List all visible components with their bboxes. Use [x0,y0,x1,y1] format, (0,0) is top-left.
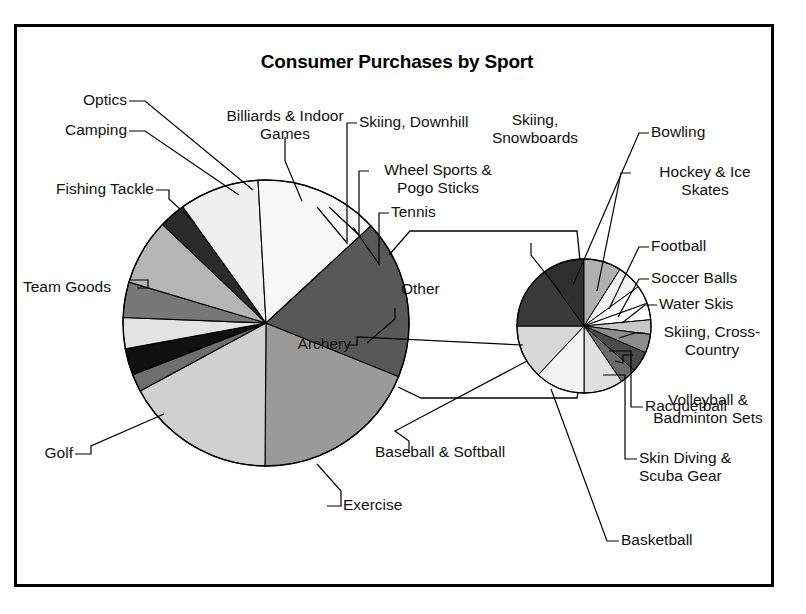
primary-pie [123,180,409,466]
label-skiing-snowboards: Skiing, Snowboards [459,111,611,148]
leader-baseball [395,361,527,453]
label-exercise: Exercise [343,496,443,514]
label-camping: Camping [17,121,127,139]
chart-page: Consumer Purchases by Sport [0,0,806,614]
label-racquetball: Racquetball [645,397,775,415]
label-skin-diving: Skin Diving & Scuba Gear [639,449,769,486]
chart-frame: Consumer Purchases by Sport [14,24,774,587]
label-billiards: Billiards & Indoor Games [205,107,365,144]
label-hockey: Hockey & Ice Skates [635,163,775,200]
label-water-skis: Water Skis [659,295,779,313]
leader-exercise [317,464,341,506]
label-team-goods: Team Goods [23,278,143,296]
label-baseball: Baseball & Softball [375,443,565,461]
label-bowling: Bowling [651,123,771,141]
label-optics: Optics [17,91,127,109]
label-fishing-tackle: Fishing Tackle [17,180,154,198]
label-golf: Golf [17,444,73,462]
label-basketball: Basketball [621,531,751,549]
label-skiing-cross: Skiing, Cross- Country [645,323,779,360]
label-tennis: Tennis [391,203,481,221]
label-football: Football [651,237,771,255]
leader-golf [75,414,164,454]
label-other: Other [401,280,491,298]
leader-basketball [551,389,619,541]
label-soccer-balls: Soccer Balls [651,269,781,287]
label-archery: Archery [267,335,351,353]
label-wheel-sports: Wheel Sports & Pogo Sticks [363,161,513,198]
